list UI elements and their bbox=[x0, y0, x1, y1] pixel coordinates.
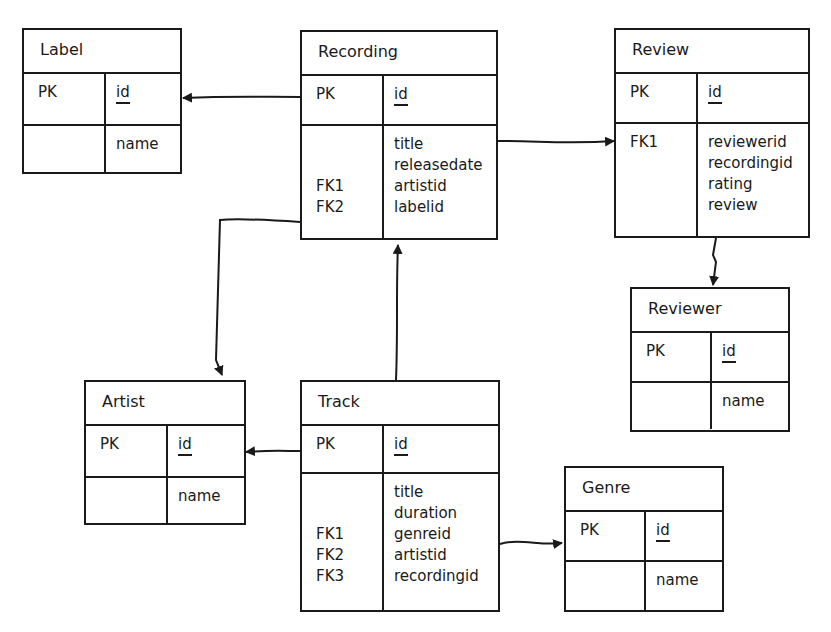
attr-key: FK3 bbox=[316, 566, 382, 587]
pk-key: PK bbox=[632, 333, 712, 381]
attr-keys bbox=[632, 383, 712, 429]
attr-key bbox=[316, 503, 382, 524]
entity-title: Recording bbox=[302, 32, 496, 76]
pk-field: id bbox=[178, 435, 192, 456]
entity-title: Track bbox=[302, 382, 498, 426]
attr-key bbox=[316, 134, 382, 155]
attr-key: FK1 bbox=[316, 524, 382, 545]
pk-key: PK bbox=[616, 74, 698, 122]
pk-field: id bbox=[656, 521, 670, 542]
entity-title: Label bbox=[24, 30, 180, 74]
attr-field: recordingid bbox=[708, 153, 793, 174]
entity-review[interactable]: Review PK id FK1 reviewerid recordingid … bbox=[614, 28, 810, 238]
attr-keys: FK1 FK2 FK3 bbox=[302, 474, 384, 610]
attr-field: artistid bbox=[394, 545, 479, 566]
connector-recording-label bbox=[183, 97, 300, 98]
connector-track-recording bbox=[396, 245, 398, 380]
connector-recording-artist bbox=[216, 219, 300, 375]
attr-field: labelid bbox=[394, 197, 483, 218]
attr-field: duration bbox=[394, 503, 479, 524]
attr-field: name bbox=[656, 570, 699, 591]
pk-field: id bbox=[394, 435, 408, 456]
attr-field: review bbox=[708, 195, 793, 216]
pk-field: id bbox=[708, 83, 722, 104]
attr-keys bbox=[86, 478, 168, 524]
attr-field: artistid bbox=[394, 176, 483, 197]
pk-key: PK bbox=[302, 426, 384, 472]
entity-title: Review bbox=[616, 30, 808, 74]
attr-key: FK1 bbox=[316, 176, 382, 197]
pk-key: PK bbox=[24, 74, 106, 124]
entity-genre[interactable]: Genre PK id name bbox=[564, 466, 724, 612]
attr-field: recordingid bbox=[394, 566, 479, 587]
entity-title: Artist bbox=[86, 382, 244, 426]
attr-field: title bbox=[394, 482, 479, 503]
pk-field: id bbox=[722, 342, 736, 363]
entity-reviewer[interactable]: Reviewer PK id name bbox=[630, 287, 790, 432]
pk-key: PK bbox=[566, 512, 646, 560]
attr-field: releasedate bbox=[394, 155, 483, 176]
attr-field: title bbox=[394, 134, 483, 155]
entity-title: Reviewer bbox=[632, 289, 788, 333]
attr-key bbox=[316, 482, 382, 503]
connector-recording-review bbox=[498, 141, 614, 142]
attr-keys: FK1 bbox=[616, 124, 698, 236]
pk-field: id bbox=[116, 83, 130, 104]
pk-key: PK bbox=[86, 426, 168, 476]
entity-artist[interactable]: Artist PK id name bbox=[84, 380, 246, 525]
entity-track[interactable]: Track PK id FK1 FK2 FK3 title duration g… bbox=[300, 380, 500, 612]
attr-keys bbox=[566, 562, 646, 610]
attr-keys bbox=[24, 126, 106, 172]
attr-keys: FK1 FK2 bbox=[302, 126, 384, 238]
attr-key: FK2 bbox=[316, 545, 382, 566]
attr-field: name bbox=[116, 134, 159, 155]
entity-recording[interactable]: Recording PK id FK1 FK2 title releasedat… bbox=[300, 30, 498, 240]
attr-key bbox=[316, 155, 382, 176]
attr-key: FK1 bbox=[630, 132, 696, 153]
pk-field: id bbox=[394, 85, 408, 106]
pk-key: PK bbox=[302, 76, 384, 124]
connector-track-artist bbox=[246, 451, 300, 452]
entity-label[interactable]: Label PK id name bbox=[22, 28, 182, 174]
attr-key: FK2 bbox=[316, 197, 382, 218]
connector-review-reviewer bbox=[713, 238, 716, 285]
attr-field: name bbox=[722, 391, 765, 412]
attr-field: name bbox=[178, 486, 221, 507]
attr-field: rating bbox=[708, 174, 793, 195]
attr-field: genreid bbox=[394, 524, 479, 545]
attr-field: reviewerid bbox=[708, 132, 793, 153]
entity-title: Genre bbox=[566, 468, 722, 512]
connector-track-genre bbox=[500, 542, 562, 544]
